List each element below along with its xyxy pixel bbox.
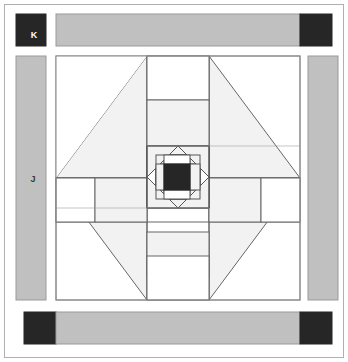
quilt-block-diagram — [0, 0, 348, 362]
rail-middle-right-inner — [209, 178, 261, 222]
corner-square-bottom-left — [24, 312, 56, 344]
diagram-canvas: K J — [0, 0, 348, 362]
central-medallion — [147, 146, 209, 208]
medallion-rail-bottom-outline — [164, 190, 190, 199]
rect-bottom-center-outer — [147, 256, 209, 300]
medallion-rail-top-outline — [164, 155, 190, 164]
sashing-strip-top — [56, 14, 300, 46]
sashing-strip-right — [308, 56, 338, 300]
sashing-strip-bottom — [56, 312, 300, 344]
rect-top-center-inner — [147, 100, 209, 146]
rail-middle-right-outer — [261, 178, 300, 222]
block-body — [56, 56, 300, 300]
rail-middle-left-inner — [95, 178, 147, 222]
center-square-dark-top — [164, 164, 190, 190]
sashing-strip-left-J — [16, 56, 46, 300]
medallion-rail-left-outline — [156, 164, 164, 190]
medallion-rail-right-outline — [190, 164, 200, 190]
rect-top-center-outer — [147, 56, 209, 100]
rail-middle-left-outer — [56, 178, 95, 222]
corner-square-top-right — [300, 14, 332, 46]
corner-square-K — [16, 14, 46, 46]
corner-square-bottom-right — [300, 312, 332, 344]
